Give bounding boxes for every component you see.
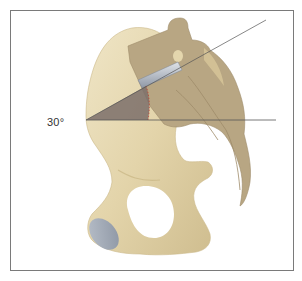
angle-label: 30°	[47, 116, 64, 128]
pelvis-illustration	[0, 0, 302, 281]
